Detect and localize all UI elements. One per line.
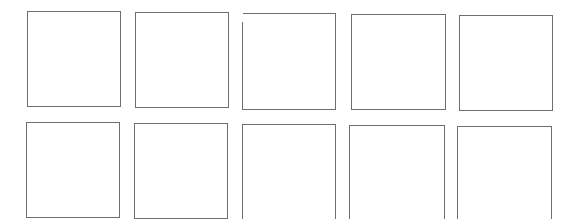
box-r1-c3 — [243, 13, 336, 110]
box-r1-c2 — [135, 12, 229, 108]
box-r1-c1 — [27, 11, 121, 107]
box-r2-c5 — [457, 126, 552, 219]
box-r2-c3 — [242, 124, 336, 219]
box-r2-c4 — [349, 125, 445, 219]
box-r1-c5 — [459, 15, 553, 111]
box-r1-c4 — [351, 14, 446, 110]
box-r2-c2 — [134, 123, 228, 219]
box-r2-c1 — [26, 122, 120, 218]
